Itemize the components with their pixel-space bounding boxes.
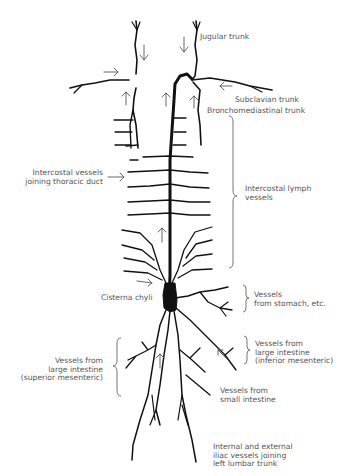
abdominal-vessels [126,308,236,462]
label-intercostal-lymph: Intercostal lymph vessels [245,185,311,202]
stomach-vessels [175,287,232,316]
label-small-intestine: Vessels from small intestine [220,387,276,404]
label-jugular-trunk: Jugular trunk [200,33,249,42]
left-jugular-trunk [132,21,140,74]
label-bronchomediastinal-trunk: Bronchomediastinal trunk [207,107,305,116]
label-iliac-vessels: Internal and external iliac vessels join… [213,443,293,469]
label-braces [113,116,250,396]
flow-arrows [104,37,232,368]
label-large-intestine-superior: Vessels from large intestine (superior m… [10,357,103,383]
label-large-intestine-inferior: Vessels from large intestine (inferior m… [255,340,333,366]
label-cisterna-chyli: Cisterna chyli [101,294,153,303]
label-intercostal-joining: Intercostal vessels joining thoracic duc… [14,169,103,186]
lymphatic-diagram [0,0,354,476]
left-subclavian-trunk [70,80,129,93]
thoracic-duct [169,21,272,300]
label-subclavian-trunk: Subclavian trunk [235,96,299,105]
intercostal-vessels [122,145,212,283]
label-vessels-stomach: Vessels from stomach, etc. [254,291,326,308]
